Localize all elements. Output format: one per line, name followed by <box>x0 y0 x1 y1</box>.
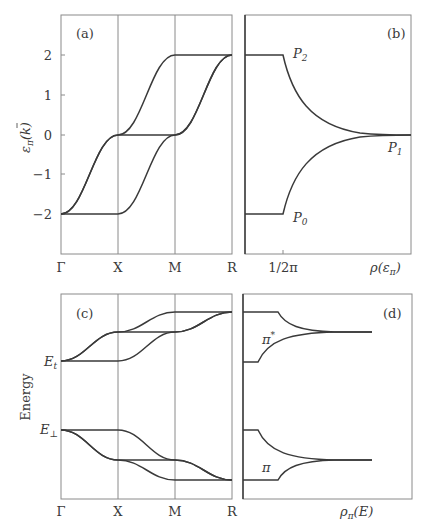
panel-label-a: (a) <box>76 26 94 41</box>
pi-band-3 <box>61 430 232 480</box>
y-axis-label-a: επ(k) <box>17 122 35 153</box>
x-tick-gamma: Γ <box>56 504 65 519</box>
dos-pi-upper <box>243 430 372 460</box>
panel-c-frame <box>61 294 232 499</box>
label-pi: π <box>261 460 271 475</box>
y-tick-2: 2 <box>44 48 52 63</box>
svg-text:επ(k): επ(k) <box>18 122 35 153</box>
x-tick-m: M <box>168 260 181 275</box>
dos-upper <box>245 55 411 135</box>
x-tick-half-pi: 1/2π <box>268 260 298 275</box>
x-tick-x: X <box>113 504 123 519</box>
x-axis-label-b: ρ(επ) <box>369 260 401 277</box>
x-tick-gamma: Γ <box>56 260 65 275</box>
y-tick-0: 0 <box>44 128 52 143</box>
panel-b: (b) P2 P1 P0 1/2π ρ(επ) <box>245 15 411 277</box>
panel-a: 2 1 0 −1 −2 επ(k) (a) Γ X M R <box>17 15 238 275</box>
y-tick-neg2: −2 <box>33 207 52 222</box>
label-p0: P0 <box>292 210 308 227</box>
x-tick-x: X <box>113 260 123 275</box>
panel-d: (d) π* π ρπ(E) <box>243 294 412 521</box>
y-tick-et: Et <box>43 354 58 371</box>
panel-c: (c) Et E⊥ Energy Γ X M R <box>18 294 238 519</box>
y-tick-neg1: −1 <box>33 167 52 182</box>
dos-lower <box>245 135 411 214</box>
figure: 2 1 0 −1 −2 επ(k) (a) Γ X M R (b) P2 P1 <box>0 0 427 532</box>
x-axis-label-d: ρπ(E) <box>339 504 373 521</box>
x-tick-m: M <box>168 504 181 519</box>
panel-label-d: (d) <box>383 306 401 321</box>
dos-pistar-upper <box>243 312 372 332</box>
label-p1: P1 <box>387 140 402 157</box>
y-tick-1: 1 <box>44 88 52 103</box>
label-p2: P2 <box>292 46 308 63</box>
panel-label-b: (b) <box>387 26 405 41</box>
y-axis-label-c: Energy <box>18 373 33 421</box>
x-tick-r: R <box>227 260 238 275</box>
y-tick-eperp: E⊥ <box>39 422 58 439</box>
band-3 <box>61 55 232 214</box>
panel-label-c: (c) <box>76 306 93 321</box>
x-tick-r: R <box>227 504 238 519</box>
